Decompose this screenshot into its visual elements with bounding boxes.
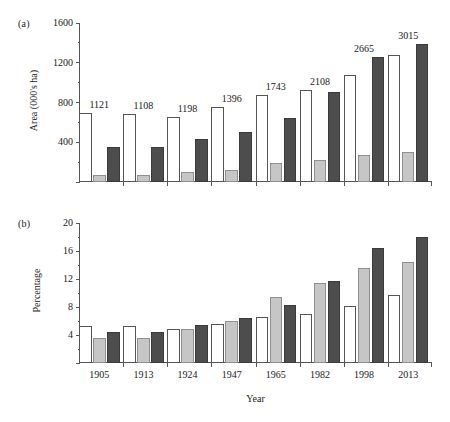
- bar-1905-s3: [107, 332, 120, 364]
- y-tick-mark: [76, 23, 80, 24]
- y-tick-label: 400: [58, 135, 73, 148]
- bar-1905-s1: [79, 326, 92, 363]
- bar-1947-s3: [239, 132, 252, 182]
- x-tick: [300, 363, 301, 367]
- panel-b-x-axis-title: Year: [79, 393, 432, 404]
- bar-1965-s3: [284, 118, 297, 182]
- bar-1924-s1: [167, 117, 180, 182]
- bar-1982-s2: [314, 283, 327, 364]
- y-minor-tick-mark: [78, 321, 81, 322]
- panel-a-y-axis-title: Area (000's ha): [28, 56, 39, 146]
- bar-1965-s1: [256, 95, 269, 182]
- bar-1998-s2: [358, 155, 371, 182]
- bar-1905-s3: [107, 147, 120, 182]
- x-tick: [256, 182, 257, 186]
- x-axis-label-1913: 1913: [133, 369, 153, 381]
- x-tick: [256, 363, 257, 367]
- group-total-label: 1121: [89, 99, 109, 111]
- y-tick-label: 800: [58, 96, 73, 109]
- panel-a-plot-area: 4008001200160011211108119813961743210826…: [79, 23, 432, 182]
- x-tick: [431, 363, 432, 367]
- group-total-label: 1743: [266, 81, 286, 93]
- x-tick: [344, 182, 345, 186]
- bar-1924-s3: [195, 139, 208, 182]
- bar-2013-s3: [416, 44, 429, 182]
- bar-2013-s2: [402, 262, 415, 364]
- x-axis-label-1924: 1924: [178, 369, 198, 381]
- panel-b-tag: (b): [18, 218, 30, 229]
- x-tick: [300, 182, 301, 186]
- y-minor-tick-mark: [78, 293, 81, 294]
- bar-1947-s2: [225, 170, 238, 182]
- x-axis-label-2013: 2013: [398, 369, 418, 381]
- bar-1913-s2: [137, 338, 150, 363]
- x-tick: [167, 182, 168, 186]
- x-tick: [431, 182, 432, 186]
- bar-1982-s1: [300, 90, 313, 182]
- y-tick-label: 20: [63, 216, 73, 229]
- bar-1947-s1: [211, 324, 224, 363]
- bar-1913-s3: [151, 332, 164, 363]
- bar-1965-s3: [284, 305, 297, 363]
- bar-1998-s1: [344, 306, 357, 363]
- figure-root: (a) Area (000's ha) 40080012001600112111…: [0, 0, 450, 422]
- y-tick-mark: [76, 251, 80, 252]
- bar-1924-s2: [181, 329, 194, 363]
- x-tick: [388, 363, 389, 367]
- group-total-label: 1396: [222, 93, 242, 105]
- bar-1998-s2: [358, 268, 371, 363]
- bar-1947-s3: [239, 318, 252, 363]
- panel-b: (b) Percentage 4812162019051913192419471…: [0, 205, 450, 422]
- y-tick-mark: [76, 62, 80, 63]
- y-tick-label: 1600: [53, 16, 73, 29]
- x-axis-label-1947: 1947: [222, 369, 242, 381]
- bar-1924-s2: [181, 172, 194, 182]
- x-tick: [211, 363, 212, 367]
- y-minor-tick-mark: [78, 82, 81, 83]
- y-tick-mark: [76, 102, 80, 103]
- bar-1913-s3: [151, 147, 164, 182]
- group-total-label: 2108: [310, 76, 330, 88]
- y-tick-label: 16: [63, 244, 73, 257]
- bar-2013-s1: [388, 295, 401, 363]
- y-tick-mark: [76, 307, 80, 308]
- panel-a-tag: (a): [18, 18, 30, 29]
- bar-1998-s3: [372, 57, 385, 182]
- bar-1998-s3: [372, 248, 385, 363]
- x-tick: [167, 363, 168, 367]
- bar-1965-s1: [256, 317, 269, 363]
- bar-1965-s2: [270, 163, 283, 182]
- bar-1947-s1: [211, 107, 224, 182]
- bar-1905-s2: [93, 338, 106, 363]
- x-axis-label-1905: 1905: [89, 369, 109, 381]
- bar-2013-s1: [388, 55, 401, 182]
- bar-1998-s1: [344, 75, 357, 182]
- panel-b-plot-area: 4812162019051913192419471965198219982013: [79, 223, 432, 363]
- panel-a: (a) Area (000's ha) 40080012001600112111…: [0, 0, 450, 205]
- bar-1982-s2: [314, 160, 327, 182]
- bar-1982-s3: [328, 281, 341, 363]
- y-tick-mark: [76, 279, 80, 280]
- bar-1913-s1: [123, 114, 136, 182]
- y-tick-label: 1200: [53, 56, 73, 69]
- x-tick: [123, 363, 124, 367]
- x-tick: [211, 182, 212, 186]
- y-tick-label: 4: [68, 328, 73, 341]
- y-tick-label: 12: [63, 272, 73, 285]
- bar-1982-s3: [328, 92, 341, 182]
- x-axis-label-1965: 1965: [266, 369, 286, 381]
- y-tick-label: 8: [68, 300, 73, 313]
- x-tick: [344, 363, 345, 367]
- bar-1924-s1: [167, 329, 180, 363]
- bar-1947-s2: [225, 321, 238, 363]
- bar-1913-s1: [123, 326, 136, 363]
- group-total-label: 1198: [178, 103, 198, 115]
- bar-1924-s3: [195, 325, 208, 364]
- y-minor-tick-mark: [78, 265, 81, 266]
- bar-2013-s3: [416, 237, 429, 363]
- group-total-label: 2665: [354, 43, 374, 55]
- x-axis-label-1998: 1998: [354, 369, 374, 381]
- x-tick: [388, 182, 389, 186]
- group-total-label: 3015: [398, 30, 418, 42]
- x-axis-label-1982: 1982: [310, 369, 330, 381]
